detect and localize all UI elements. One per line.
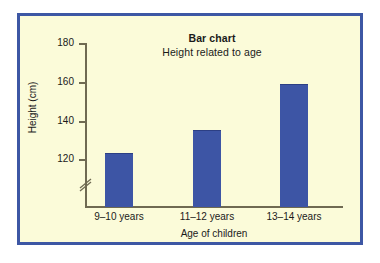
y-axis-title: Height (cm) (27, 63, 38, 153)
y-tick-120 (79, 159, 86, 161)
chart-frame: Bar chart Height related to age 180 160 … (17, 13, 363, 245)
y-tick-160 (79, 82, 86, 84)
y-tick-label-180: 180 (40, 37, 74, 48)
y-tick-label-160: 160 (40, 76, 74, 87)
bar-9-10-years[interactable] (105, 153, 133, 207)
y-tick-label-120: 120 (40, 153, 74, 164)
x-tick-label-0: 9–10 years (79, 211, 159, 222)
x-tick-label-2: 13–14 years (254, 211, 334, 222)
x-axis-title: Age of children (85, 228, 343, 239)
bar-11-12-years[interactable] (193, 130, 221, 207)
y-tick-180 (79, 43, 86, 45)
axis-break-icon (79, 176, 93, 192)
y-tick-label-140: 140 (40, 115, 74, 126)
x-tick-label-1: 11–12 years (167, 211, 247, 222)
y-tick-140 (79, 121, 86, 123)
figure-root: Bar chart Height related to age 180 160 … (0, 0, 380, 263)
bar-13-14-years[interactable] (280, 84, 308, 207)
plot-area: Bar chart Height related to age 180 160 … (20, 16, 360, 242)
